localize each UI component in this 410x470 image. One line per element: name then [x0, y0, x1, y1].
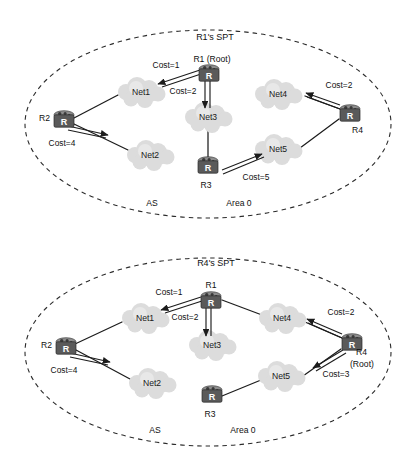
region-label-area: Area 0: [226, 198, 252, 208]
cloud-label-net3: Net3: [203, 340, 221, 350]
cloud-label-net3: Net3: [199, 112, 217, 122]
panel-title: R1's SPT: [196, 32, 234, 42]
panel-r4-spt: R4's SPT Net1: [25, 258, 391, 446]
cloud-label-net4: Net4: [273, 313, 291, 323]
spt-arrow-r2-net2: [70, 353, 110, 365]
link-r4-net5: [300, 119, 339, 148]
link-r2-net1: [75, 322, 122, 344]
router-label-r1: R1 (Root): [193, 54, 230, 64]
cost-label-r1-net1: Cost=1: [156, 287, 183, 297]
cost-label-r2-net2: Cost=4: [49, 138, 76, 148]
cloud-label-net5: Net5: [269, 144, 287, 154]
router-label-r2: R2: [41, 340, 52, 350]
router-r1: [199, 65, 219, 82]
router-r3: [198, 157, 218, 174]
cloud-label-net1: Net1: [132, 87, 150, 97]
cost-label-r1-net3: Cost=2: [170, 86, 197, 96]
router-label-r3: R3: [205, 409, 216, 419]
cloud-label-net1: Net1: [136, 313, 154, 323]
cost-label-r4-net4: Cost=2: [328, 307, 355, 317]
panel-title: R4's SPT: [197, 258, 235, 268]
router-label-r4-root: (Root): [350, 359, 374, 369]
cloud-label-net5: Net5: [272, 371, 290, 381]
spt-arrow-r1-net1: [158, 70, 201, 87]
router-r2: [54, 111, 74, 128]
spt-arrow-r4-net5: [313, 350, 346, 371]
cost-label-r2-net2: Cost=4: [51, 365, 78, 375]
cost-label-r1-net1: Cost=1: [153, 60, 180, 70]
cost-label-r4-net5: Cost=3: [323, 369, 350, 379]
router-label-r4: R4: [352, 125, 363, 135]
region-label-area: Area 0: [230, 425, 256, 435]
router-r4: [340, 105, 360, 122]
router-label-r1: R1: [206, 280, 217, 290]
link-r2-net1: [74, 95, 118, 118]
spt-arrow-r4-net4: [307, 319, 342, 338]
spt-arrow-r2-net2: [68, 126, 108, 138]
router-label-r2: R2: [39, 113, 50, 123]
region-label-as: AS: [149, 425, 161, 435]
spt-arrow-r3-net5: [222, 154, 264, 174]
cloud-label-net4: Net4: [269, 89, 287, 99]
spt-arrow-r1-net1: [161, 297, 202, 313]
router-r3: [202, 386, 222, 403]
router-r2: [56, 338, 76, 355]
region-label-as: AS: [146, 198, 158, 208]
link-r1-net4: [222, 300, 262, 315]
cost-label-r3-net5: Cost=5: [243, 172, 270, 182]
cost-label-r1-net3: Cost=2: [172, 312, 199, 322]
router-label-r4: R4: [356, 347, 367, 357]
link-r3-net5: [222, 380, 261, 396]
cloud-label-net2: Net2: [141, 150, 159, 160]
panel-r1-spt: R1's SPT Net1 Net2: [25, 30, 391, 218]
network-spt-figure: R R1's SPT: [0, 0, 410, 470]
router-label-r3: R3: [201, 180, 212, 190]
spt-arrow-r4-net4: [306, 93, 340, 109]
cloud-label-net2: Net2: [143, 378, 161, 388]
cost-label-r4-net4: Cost=2: [326, 80, 353, 90]
router-r1: [201, 292, 221, 309]
